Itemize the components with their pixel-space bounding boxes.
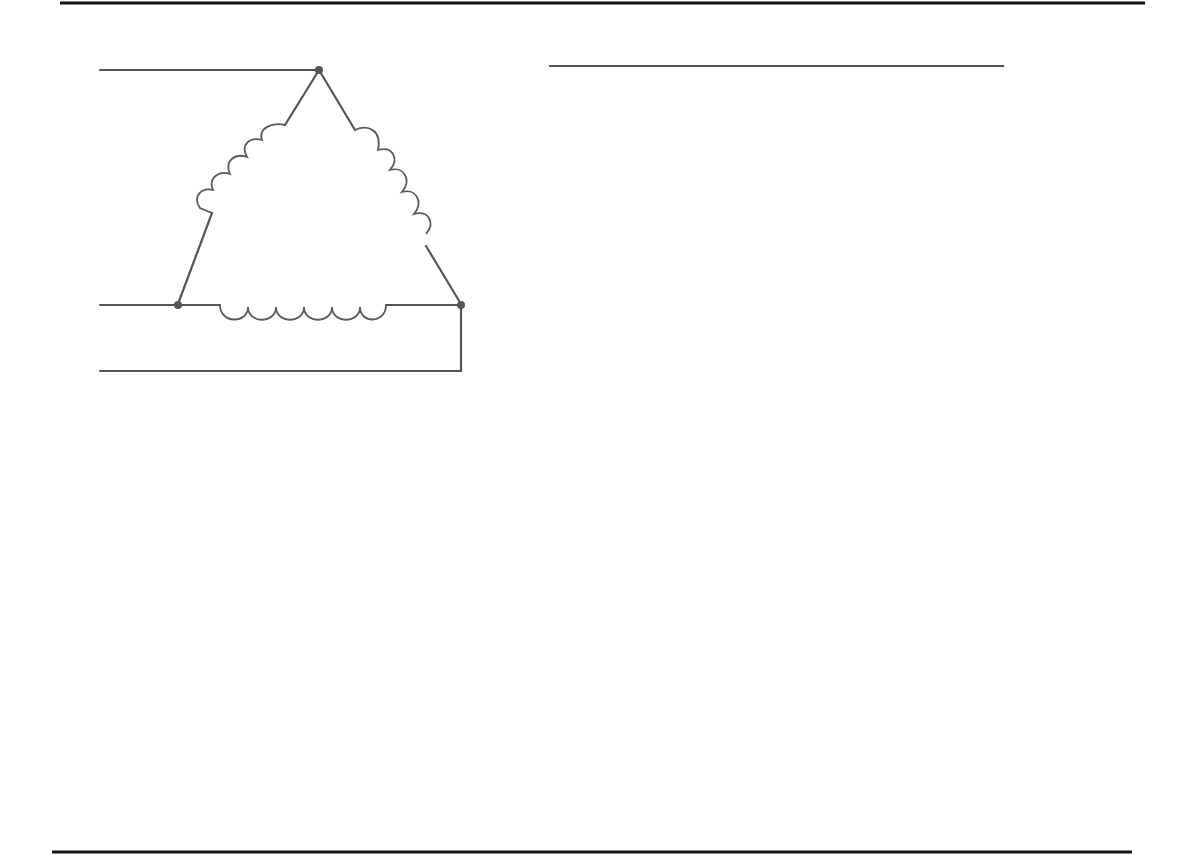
delta-right-lead-top	[319, 70, 355, 130]
delta-node-c	[457, 301, 465, 309]
delta-diagram	[100, 66, 465, 371]
delta-left-lead-top	[285, 70, 319, 125]
delta-right-lead-bottom	[426, 246, 461, 304]
delta-left-coil	[197, 124, 285, 213]
delta-node-a	[315, 66, 323, 74]
delta-bottom-coil	[220, 305, 386, 320]
delta-node-b	[174, 301, 182, 309]
diagram-canvas	[0, 0, 1202, 864]
delta-right-coil	[355, 128, 430, 234]
delta-left-lead-bottom	[178, 213, 212, 304]
